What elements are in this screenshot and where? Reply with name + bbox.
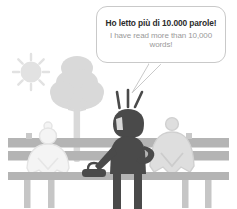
speech-bubble: Ho letto più di 10.000 parole! I have re… [96,6,226,63]
seated-person-left [27,122,69,178]
speech-bubble-tail [132,62,163,93]
sun-icon [13,54,49,90]
seated-person-right [150,118,194,176]
speech-bubble-secondary-text: I have read more than 10,000 words! [102,31,220,50]
standing-person [95,109,154,209]
speech-bubble-primary-text: Ho letto più di 10.000 parole! [105,19,216,29]
illustration-canvas: Ho letto più di 10.000 parole! I have re… [0,0,237,209]
emphasis-marks-icon [117,90,142,108]
